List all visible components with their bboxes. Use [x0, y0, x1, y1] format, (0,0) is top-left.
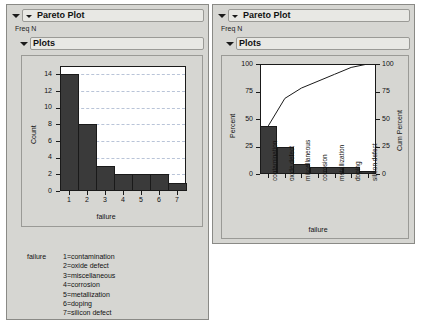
- percent-chart-y-tick-mark: [256, 119, 260, 120]
- legend-item: 7=silicon defect: [63, 308, 115, 317]
- percent-chart-x-tick-mark: [351, 174, 352, 178]
- count-chart-x-tick-label: 7: [175, 196, 179, 203]
- count-chart-gridline: [61, 91, 185, 92]
- count-chart-bar[interactable]: [150, 174, 169, 191]
- percent-chart-y2-tick-label: 0: [382, 170, 386, 177]
- percent-chart-x-tick-mark: [268, 174, 269, 178]
- percent-chart-y-tick-label: 50: [245, 115, 253, 122]
- percent-chart-y-tick-mark: [256, 92, 260, 93]
- count-chart-x-tick-mark: [69, 191, 70, 195]
- count-chart-gridline: [61, 108, 185, 109]
- disclosure-triangle-inner-icon[interactable]: [231, 11, 240, 20]
- disclosure-triangle-icon[interactable]: [217, 11, 226, 20]
- legend-item: 3=miscellaneous: [63, 271, 115, 280]
- count-chart-frame: Count failure 024681012141234567: [21, 55, 203, 227]
- plots-title-box-left[interactable]: Plots: [30, 37, 204, 50]
- percent-chart-x-tick-mark: [285, 174, 286, 178]
- legend-heading: failure: [27, 252, 46, 261]
- count-chart-y-tick-label: 4: [48, 153, 52, 160]
- legend-item: 1=contamination: [63, 252, 115, 261]
- percent-chart-y2-tick-label: 100: [382, 60, 394, 67]
- cum-percent-polyline: [268, 64, 367, 126]
- percent-chart-category-label: corrosion: [321, 154, 328, 181]
- count-chart-y-tick-mark: [56, 191, 60, 192]
- count-chart-y-tick-label: 6: [48, 137, 52, 144]
- count-chart-x-tick-label: 2: [85, 196, 89, 203]
- count-chart-bar[interactable]: [60, 74, 79, 191]
- panel-title-row-right[interactable]: Pareto Plot: [217, 8, 410, 22]
- disclosure-triangle-icon[interactable]: [11, 11, 20, 20]
- pareto-plot-panel-right: Pareto Plot Freq N Plots Percent Cum Per…: [212, 4, 415, 244]
- legend-item: 2=oxide defect: [63, 261, 115, 270]
- percent-chart-frame: Percent Cum Percent failure 025507510002…: [221, 55, 409, 239]
- count-chart-x-tick-mark: [105, 191, 106, 195]
- percent-chart-y2-axis-title: Cum Percent: [396, 110, 403, 151]
- percent-chart-y2-tick-label: 25: [382, 142, 390, 149]
- legend-item: 6=doping: [63, 299, 115, 308]
- count-chart-x-axis-title: failure: [96, 213, 115, 220]
- plots-disclosure-triangle-icon[interactable]: [225, 39, 234, 48]
- plots-label-right: Plots: [239, 38, 261, 49]
- percent-chart-category-label: metallization: [338, 145, 345, 181]
- plots-title-row-left[interactable]: Plots: [19, 36, 204, 50]
- percent-chart-y2-tick-mark: [376, 64, 380, 65]
- count-chart-y-tick-label: 12: [44, 87, 52, 94]
- count-chart-x-tick-label: 3: [103, 196, 107, 203]
- count-chart-y-tick-label: 0: [48, 187, 52, 194]
- percent-chart-y-tick-label: 25: [245, 142, 253, 149]
- plots-title-box-right[interactable]: Plots: [236, 37, 410, 50]
- count-chart-bar[interactable]: [132, 174, 151, 191]
- plots-title-row-right[interactable]: Plots: [225, 36, 410, 50]
- count-chart-x-tick-label: 5: [139, 196, 143, 203]
- freq-label-right: Freq N: [221, 24, 414, 33]
- count-chart-y-tick-label: 10: [44, 103, 52, 110]
- count-chart-bar[interactable]: [168, 183, 187, 191]
- panel-title-box-right[interactable]: Pareto Plot: [228, 9, 410, 22]
- legend-item: 5=metallization: [63, 290, 115, 299]
- percent-chart-y-axis-title: Percent: [229, 114, 236, 138]
- count-chart-x-tick-mark: [177, 191, 178, 195]
- panel-title-row-left[interactable]: Pareto Plot: [11, 8, 204, 22]
- count-chart-y-tick-label: 8: [48, 120, 52, 127]
- percent-chart-category-label: oxide defect: [288, 146, 295, 181]
- count-chart-x-tick-mark: [159, 191, 160, 195]
- plots-label-left: Plots: [33, 38, 55, 49]
- percent-chart-y-tick-label: 0: [249, 170, 253, 177]
- freq-label-left: Freq N: [15, 24, 208, 33]
- legend-item: 4=corrosion: [63, 280, 115, 289]
- count-chart-x-tick-label: 1: [67, 196, 71, 203]
- percent-chart-y-tick-mark: [256, 174, 260, 175]
- failure-code-legend: failure 1=contamination2=oxide defect3=m…: [27, 252, 115, 318]
- percent-chart-y2-tick-mark: [376, 92, 380, 93]
- percent-chart-y2-tick-label: 50: [382, 115, 390, 122]
- percent-chart-category-label: silicon defect: [371, 143, 378, 181]
- count-chart-x-tick-mark: [141, 191, 142, 195]
- percent-chart-x-tick-mark: [318, 174, 319, 178]
- panel-title-right: Pareto Plot: [243, 10, 291, 21]
- count-chart-bar[interactable]: [78, 124, 97, 191]
- count-chart-y-tick-label: 14: [44, 70, 52, 77]
- percent-chart-category-label: contamination: [271, 141, 278, 181]
- panel-title-box[interactable]: Pareto Plot: [22, 9, 204, 22]
- percent-chart-category-label: miscellaneous: [304, 140, 311, 181]
- percent-chart-x-tick-mark: [368, 174, 369, 178]
- percent-chart-x-axis-title: failure: [308, 226, 327, 233]
- percent-chart-y-tick-mark: [256, 64, 260, 65]
- percent-chart-x-tick-mark: [301, 174, 302, 178]
- plots-disclosure-triangle-icon[interactable]: [19, 39, 28, 48]
- count-chart-x-tick-label: 6: [157, 196, 161, 203]
- count-chart-x-tick-label: 4: [121, 196, 125, 203]
- count-chart-gridline: [61, 74, 185, 75]
- disclosure-triangle-inner-icon[interactable]: [25, 11, 34, 20]
- percent-chart-category-label: doping: [354, 161, 361, 181]
- panel-title-left: Pareto Plot: [37, 10, 85, 21]
- percent-chart-x-tick-mark: [335, 174, 336, 178]
- percent-chart-y2-tick-label: 75: [382, 87, 390, 94]
- percent-chart-y2-tick-mark: [376, 119, 380, 120]
- legend-item-list: 1=contamination2=oxide defect3=miscellan…: [63, 252, 115, 318]
- percent-chart-y-tick-label: 100: [241, 60, 253, 67]
- count-chart-bar[interactable]: [96, 166, 115, 191]
- count-chart-bar[interactable]: [114, 174, 133, 191]
- percent-chart-y-tick-label: 75: [245, 87, 253, 94]
- count-chart-x-tick-mark: [123, 191, 124, 195]
